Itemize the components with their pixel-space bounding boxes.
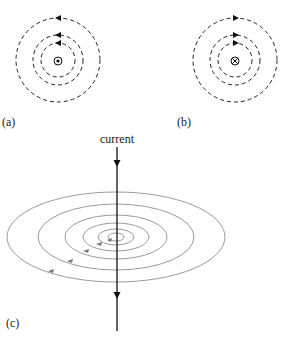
panel-b-arrow-icons	[233, 15, 239, 46]
panel-c-field-arrow-icons	[48, 238, 112, 273]
current-label: current	[100, 133, 134, 145]
panel-a-label: (a)	[2, 116, 15, 128]
magnetic-field-figure: (a) (b) current (c)	[0, 0, 294, 338]
panel-c-label: (c)	[6, 317, 19, 329]
panel-a-arrow-icons	[55, 15, 61, 46]
panel-b-field-lines	[193, 18, 277, 102]
current-into-page-icon	[231, 57, 239, 65]
current-arrow-bottom-icon	[114, 292, 121, 299]
current-arrow-top-icon	[114, 160, 121, 167]
panel-b-label: (b)	[177, 116, 191, 128]
panel-c-field-ellipses	[7, 192, 225, 282]
current-out-of-page-icon	[54, 57, 62, 65]
